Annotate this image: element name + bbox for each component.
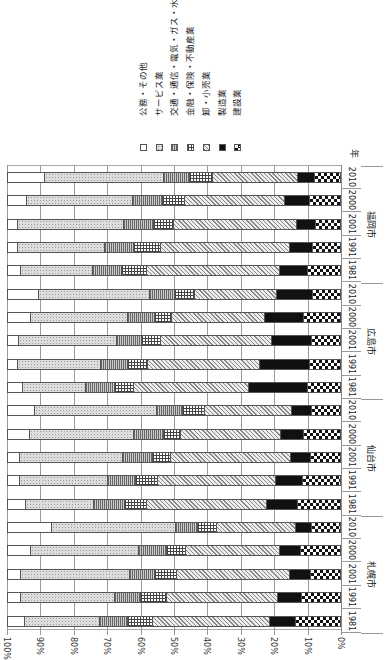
segment-service <box>30 313 127 322</box>
segment-constr <box>312 290 340 299</box>
segment-finance <box>154 570 176 579</box>
segment-service <box>17 360 100 369</box>
city-label: 福岡市 <box>361 166 381 282</box>
legend-label: サービス業 <box>152 71 164 116</box>
segment-transport <box>149 290 174 299</box>
segment-retail <box>171 313 264 322</box>
year-text: 1991 <box>347 587 356 607</box>
segment-finance <box>174 290 194 299</box>
segment-manuf <box>269 617 295 626</box>
year-label: 2010 <box>341 399 361 422</box>
bar-仙台市-2000 <box>7 429 341 440</box>
segment-public <box>8 523 51 532</box>
city-label: 仙台市 <box>361 399 381 515</box>
segment-public <box>8 476 19 485</box>
segment-public <box>8 593 20 602</box>
tick-label: 80% <box>69 637 78 655</box>
bar-福岡市-2010 <box>7 172 341 183</box>
segment-public <box>8 266 20 275</box>
city-text: 仙台市 <box>365 444 378 471</box>
segment-public <box>8 360 17 369</box>
tick-label: 0% <box>336 637 345 650</box>
year-label: 1991 <box>341 586 361 609</box>
bar-広島市-2010 <box>7 289 341 300</box>
bar-札幌市-2001 <box>7 569 341 580</box>
segment-transport <box>175 523 197 532</box>
bar-札幌市-1991 <box>7 592 341 603</box>
segment-public <box>8 546 30 555</box>
segment-transport <box>138 546 166 555</box>
city-separator <box>361 283 383 284</box>
segment-constr <box>303 313 340 322</box>
segment-constr <box>311 523 340 532</box>
bar-札幌市-2000 <box>7 545 341 556</box>
gridline <box>308 165 309 635</box>
segment-retail <box>194 290 277 299</box>
segment-retail <box>157 476 275 485</box>
tick-label: 100% <box>2 637 11 660</box>
segment-constr <box>307 266 340 275</box>
city-label: 札幌市 <box>361 516 381 632</box>
segment-manuf <box>295 523 311 532</box>
segment-constr <box>301 593 340 602</box>
city-text: 広島市 <box>365 327 378 354</box>
legend-swatch-service <box>156 144 163 151</box>
segment-manuf <box>284 196 309 205</box>
city-text: 札幌市 <box>365 561 378 588</box>
segment-service <box>20 266 93 275</box>
tick-label: 40% <box>202 637 211 655</box>
segment-manuf <box>296 220 315 229</box>
segment-finance <box>189 173 212 182</box>
bar-仙台市-1981 <box>7 499 341 510</box>
segment-manuf <box>271 336 311 345</box>
segment-finance <box>162 196 184 205</box>
year-label: 2010 <box>341 516 361 539</box>
segment-constr <box>314 173 340 182</box>
year-text: 2010 <box>347 167 356 187</box>
segment-manuf <box>279 546 300 555</box>
year-label: 1991 <box>341 236 361 259</box>
year-label: 2000 <box>341 423 361 446</box>
segment-constr <box>300 546 340 555</box>
segment-transport <box>129 570 154 579</box>
city-text: 福岡市 <box>365 211 378 238</box>
segment-transport <box>93 500 124 509</box>
segment-retail <box>180 430 280 439</box>
year-text: 2001 <box>347 330 356 350</box>
segment-service <box>24 617 99 626</box>
year-label: 2000 <box>341 539 361 562</box>
year-text: 1991 <box>347 353 356 373</box>
bar-福岡市-2001 <box>7 219 341 230</box>
segment-manuf <box>248 383 307 392</box>
tick-label: 10% <box>303 637 312 655</box>
segment-manuf <box>275 476 302 485</box>
bar-札幌市-2010 <box>7 522 341 533</box>
year-text: 2001 <box>347 213 356 233</box>
segment-retail <box>160 243 289 252</box>
segment-manuf <box>289 243 312 252</box>
segment-constr <box>309 360 340 369</box>
segment-constr <box>311 336 340 345</box>
year-text: 1981 <box>347 494 356 514</box>
segment-transport <box>100 360 127 369</box>
year-text: 2000 <box>347 540 356 560</box>
segment-manuf <box>289 570 310 579</box>
legend-label: 公務・その他 <box>136 62 148 116</box>
segment-finance <box>135 476 157 485</box>
tick-label: 60% <box>136 637 145 655</box>
gridline <box>107 165 108 635</box>
year-axis-title: 年 <box>348 149 361 158</box>
bar-広島市-1981 <box>7 382 341 393</box>
segment-service <box>44 173 164 182</box>
bar-福岡市-2000 <box>7 195 341 206</box>
segment-service <box>17 243 104 252</box>
segment-manuf <box>266 500 297 509</box>
bar-仙台市-2001 <box>7 452 341 463</box>
segment-transport <box>132 196 162 205</box>
tick-label: 30% <box>236 637 245 655</box>
segment-manuf <box>259 360 309 369</box>
segment-public <box>8 196 26 205</box>
legend-label: 交通・通信・電気・ガス・水道 <box>167 0 179 116</box>
year-text: 2010 <box>347 517 356 537</box>
city-label: 広島市 <box>361 283 381 399</box>
